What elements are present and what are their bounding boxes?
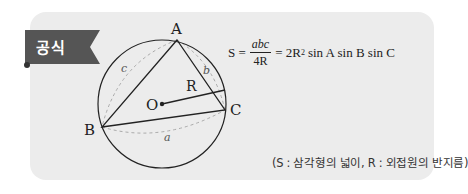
radius-label: R (186, 78, 197, 94)
fraction-denominator: 4R (253, 53, 267, 67)
center-point (160, 102, 164, 106)
side-label-c: c (121, 62, 127, 75)
formula-eq2: = 2R (275, 45, 301, 61)
formula-exponent: 2 (301, 48, 305, 57)
vertex-label-a: A (171, 20, 182, 38)
formula-rhs: sin A sin B sin C (308, 45, 395, 61)
formula-fraction: abc 4R (250, 38, 271, 67)
tab-label: 공식 (36, 36, 66, 57)
formula-lhs: S = (228, 45, 246, 61)
side-label-b: b (203, 64, 210, 77)
vertex-label-c: C (230, 101, 241, 119)
center-label-o: O (146, 96, 158, 114)
side-label-a: a (164, 131, 171, 144)
legend-note: (S : 삼각형의 넓이, R : 외접원의 반지름) (272, 154, 468, 170)
area-formula: S = abc 4R = 2R2 sin A sin B sin C (228, 38, 395, 67)
vertex-label-b: B (84, 121, 95, 139)
fraction-numerator: abc (250, 38, 271, 53)
